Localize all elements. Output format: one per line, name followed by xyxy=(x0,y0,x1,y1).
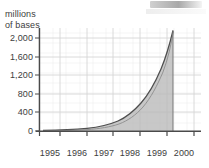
x-tick-label: 1998 xyxy=(116,148,144,158)
minor-gridlines xyxy=(39,28,201,131)
area-series xyxy=(43,31,173,132)
y-tick-label: 800 xyxy=(18,89,33,99)
y-tick-marks xyxy=(35,38,39,131)
x-tick-label: 1996 xyxy=(63,148,91,158)
y-tick-label: 1,200 xyxy=(10,70,33,80)
x-tick-label: 2000 xyxy=(170,148,198,158)
y-tick-label: 1,600 xyxy=(10,52,33,62)
y-tick-label: 400 xyxy=(18,107,33,117)
x-tick-label: 1995 xyxy=(36,148,64,158)
chart-axes xyxy=(36,28,201,131)
y-tick-label: 0 xyxy=(28,126,33,136)
x-tick-label: 1999 xyxy=(143,148,171,158)
y-axis-tick-labels: 2,000 1,600 1,200 800 400 0 xyxy=(0,0,33,168)
y-tick-label: 2,000 xyxy=(10,33,33,43)
x-tick-label: 1997 xyxy=(90,148,118,158)
